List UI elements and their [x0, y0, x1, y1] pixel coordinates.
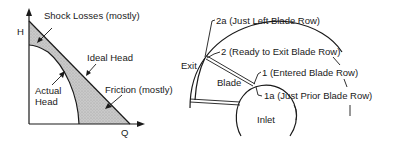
h-axis-label: H: [17, 26, 24, 37]
station-1a-leader: [256, 87, 262, 96]
station-2-label: 2 (Ready to Exit Blade Row): [221, 46, 340, 57]
h-axis-arrow-icon: [26, 8, 32, 16]
q-axis-arrow-icon: [137, 121, 145, 127]
q-axis-label: Q: [121, 127, 128, 138]
impeller-stations-diagram: Exit Blade Inlet 2a (Just Left Blade Row…: [181, 15, 372, 136]
inlet-right-tick: [294, 105, 297, 120]
inlet-label: Inlet: [257, 114, 275, 125]
blade-label: Blade: [217, 77, 241, 88]
right-arc-tick-1: [333, 57, 340, 65]
station-1-label: 1 (Entered Blade Row): [262, 67, 358, 78]
station-1-leader: [254, 72, 261, 84]
shock-losses-label: Shock Losses (mostly): [44, 10, 140, 21]
exit-label: Exit: [181, 60, 197, 71]
pump-diagram-canvas: H Q Shock Losses (mostly) Ideal Head Act…: [0, 0, 400, 145]
actual-head-label-line1: Actual: [35, 85, 61, 96]
friction-label: Friction (mostly): [105, 84, 173, 95]
ideal-head-leader: [86, 64, 96, 76]
station-1a-label: 1a (Just Prior Blade Row): [264, 90, 372, 101]
head-capacity-chart: H Q Shock Losses (mostly) Ideal Head Act…: [17, 8, 173, 138]
ideal-head-label: Ideal Head: [87, 52, 133, 63]
station-2a-label: 2a (Just Left Blade Row): [216, 15, 320, 26]
actual-head-leader: [52, 71, 65, 85]
blade-lower: [190, 99, 240, 105]
actual-head-label-line2: Head: [35, 96, 58, 107]
right-arc-tick-2: [344, 79, 347, 87]
